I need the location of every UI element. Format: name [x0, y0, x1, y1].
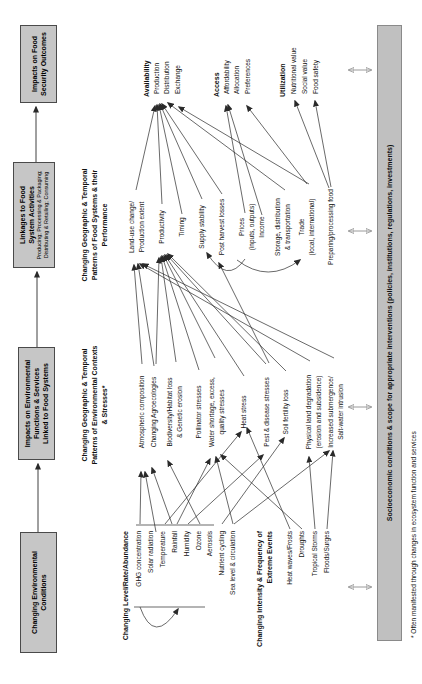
impact-arrow: [136, 106, 155, 190]
impact-arrow: [247, 106, 307, 184]
impact-arrow: [164, 256, 215, 358]
impact-arrow: [188, 455, 263, 524]
impact-arrow: [165, 255, 244, 376]
diagram-root: Changing EnvironmentalConditionsImpacts …: [0, 0, 422, 684]
feedback-arrow: [140, 607, 178, 627]
impact-arrow: [162, 256, 199, 370]
impact-arrow: [309, 457, 315, 529]
impact-arrow: [159, 105, 182, 214]
impact-arrow: [315, 101, 331, 187]
impact-arrow: [152, 468, 172, 524]
impact-arrow: [221, 455, 302, 529]
figure-canvas: Changing EnvironmentalConditionsImpacts …: [0, 0, 422, 684]
impact-arrow: [162, 104, 222, 194]
impact-arrow: [145, 472, 156, 532]
impact-arrow: [167, 255, 266, 364]
impact-arrow: [143, 264, 334, 358]
impact-arrow: [226, 106, 245, 213]
impact-arrow: [157, 105, 162, 204]
impact-arrow: [161, 257, 176, 362]
impact-arrow: [138, 264, 154, 366]
impact-arrow: [216, 457, 233, 524]
impact-arrow: [228, 105, 262, 215]
impact-arrow: [160, 104, 202, 199]
arrows-layer: [0, 0, 422, 684]
feedback-arrow: [237, 260, 300, 272]
impact-arrow: [140, 472, 141, 524]
impact-arrow: [177, 459, 210, 524]
impact-arrow: [168, 254, 286, 371]
impact-arrow: [168, 103, 285, 190]
impact-arrow: [179, 107, 309, 184]
impact-arrow: [327, 451, 333, 529]
impact-arrow: [247, 428, 290, 529]
impact-arrow: [222, 438, 284, 524]
